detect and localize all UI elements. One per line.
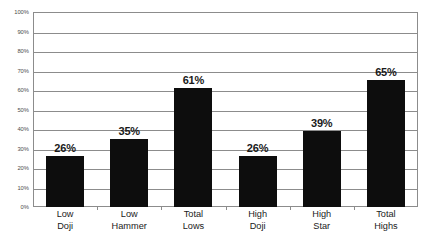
y-axis-tick-label: 50% (0, 106, 29, 113)
category-label-line: Doji (226, 221, 290, 233)
y-axis-tick-label: 100% (0, 9, 29, 16)
y-axis-tick-label: 20% (0, 165, 29, 172)
bar-slot: 26% (33, 12, 97, 207)
bar[interactable] (174, 88, 212, 207)
category-label-line: Lows (161, 221, 225, 233)
x-axis-category-label: HighDoji (226, 209, 290, 232)
y-axis-tick-label: 40% (0, 126, 29, 133)
x-axis-category-label: TotalHighs (354, 209, 418, 232)
category-label-line: Hammer (97, 221, 161, 233)
bar-slot: 65% (354, 12, 418, 207)
bar[interactable] (367, 80, 405, 207)
bar-slot: 35% (97, 12, 161, 207)
category-label-line: Low (97, 209, 161, 221)
x-axis-tick (354, 207, 355, 210)
category-label-line: Highs (354, 221, 418, 233)
bar-slot: 61% (161, 12, 225, 207)
y-axis-tick-label: 10% (0, 184, 29, 191)
x-axis-category-labels: LowDojiLowHammerTotalLowsHighDojiHighSta… (33, 209, 418, 246)
bar[interactable] (239, 156, 277, 207)
bar-value-label: 35% (119, 125, 140, 137)
x-axis-category-label: TotalLows (161, 209, 225, 232)
x-axis-category-label: LowDoji (33, 209, 97, 232)
y-axis-tick-label: 90% (0, 28, 29, 35)
bar-chart: 0%10%20%30%40%50%60%70%80%90%100% 26%35%… (0, 0, 429, 246)
category-label-line: Low (33, 209, 97, 221)
x-axis-category-label: LowHammer (97, 209, 161, 232)
x-axis-tick (97, 207, 98, 210)
x-axis-tick (226, 207, 227, 210)
category-label-line: Star (290, 221, 354, 233)
category-label-line: High (290, 209, 354, 221)
bar[interactable] (110, 139, 148, 207)
y-axis-tick-label: 80% (0, 48, 29, 55)
y-axis-tick-label: 60% (0, 87, 29, 94)
bar-value-label: 39% (311, 117, 332, 129)
y-axis-tick-label: 30% (0, 145, 29, 152)
bar-value-label: 65% (375, 66, 396, 78)
bar[interactable] (303, 131, 341, 207)
bar[interactable] (46, 156, 84, 207)
x-axis-category-label: HighStar (290, 209, 354, 232)
category-label-line: Total (354, 209, 418, 221)
x-axis-tick (290, 207, 291, 210)
bar-value-label: 61% (183, 74, 204, 86)
bar-slot: 26% (226, 12, 290, 207)
bar-value-label: 26% (54, 142, 75, 154)
y-axis-tick-label: 0% (0, 204, 29, 211)
bars-layer: 26%35%61%26%39%65% (33, 12, 418, 207)
bar-value-label: 26% (247, 142, 268, 154)
y-axis-tick-label: 70% (0, 67, 29, 74)
category-label-line: Doji (33, 221, 97, 233)
category-label-line: High (226, 209, 290, 221)
bar-slot: 39% (290, 12, 354, 207)
x-axis-tick (161, 207, 162, 210)
category-label-line: Total (161, 209, 225, 221)
